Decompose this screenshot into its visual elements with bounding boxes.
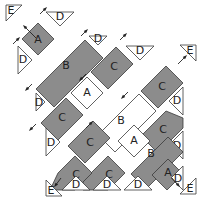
piece-label: B — [62, 59, 70, 72]
piece-label: E — [48, 184, 55, 197]
piece-label: D — [136, 44, 144, 57]
piece-label: A — [34, 33, 42, 46]
piece-label: C — [58, 111, 66, 124]
piece-label: D — [35, 96, 43, 109]
piece-label: D — [72, 178, 80, 191]
piece-e-corner-triangle: E — [180, 44, 196, 61]
piece-label: E — [8, 4, 15, 17]
assembly-arrow-icon — [40, 7, 47, 14]
piece-label: C — [86, 136, 94, 149]
diagram-canvas: EADDBDDCDACDECDBCADBCCCADDDDEE — [0, 0, 205, 212]
piece-d-side-triangle: D — [46, 10, 74, 26]
piece-d-side-triangle: D — [126, 44, 154, 60]
assembly-arrow-icon — [13, 37, 20, 44]
piece-label: D — [103, 178, 111, 191]
piece-e-corner-triangle: E — [6, 4, 22, 21]
assembly-arrow-icon — [121, 92, 128, 99]
piece-label: E — [187, 44, 194, 57]
assembly-arrow-icon — [25, 84, 32, 91]
piece-d-side-triangle: D — [18, 46, 32, 74]
piece-label: A — [164, 166, 172, 179]
piece-label: D — [56, 10, 64, 23]
piece-label: A — [83, 86, 91, 99]
assembly-arrow-icon — [81, 29, 88, 36]
piece-label: A — [130, 134, 138, 147]
piece-label: D — [94, 32, 102, 45]
piece-label: B — [117, 114, 125, 127]
piece-label: D — [134, 178, 142, 191]
piece-label: B — [147, 147, 155, 160]
piece-d-side-triangle: D — [89, 32, 107, 45]
assembly-arrow-icon — [178, 55, 187, 64]
piece-label: C — [159, 123, 167, 136]
assembly-arrow-icon — [120, 33, 127, 40]
piece-label: C — [110, 60, 118, 73]
piece-a-square: A — [22, 23, 54, 55]
piece-label: E — [187, 182, 194, 195]
piece-label: D — [173, 94, 181, 107]
quilt-assembly-diagram: EADDBDDCDACDECDBCADBCCCADDDDEE — [0, 0, 205, 212]
piece-label: C — [158, 80, 166, 93]
piece-label: D — [47, 136, 55, 149]
piece-label: D — [19, 53, 27, 66]
assembly-arrow-icon — [29, 124, 36, 131]
